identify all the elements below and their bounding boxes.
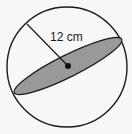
radius-label: 12 cm [50,30,83,44]
center-dot [65,63,71,69]
sphere-diagram: 12 cm [0,0,132,134]
